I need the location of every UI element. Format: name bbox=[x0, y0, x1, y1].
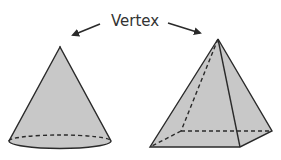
arrow-to-cone-vertex bbox=[73, 24, 100, 35]
arrow-to-pyramid-vertex bbox=[168, 23, 200, 33]
vertex-diagram: Vertex bbox=[0, 0, 281, 160]
cone-vertex bbox=[59, 46, 61, 48]
vertex-label: Vertex bbox=[111, 12, 159, 30]
cone bbox=[9, 46, 111, 148]
cone-body bbox=[9, 47, 111, 149]
square-pyramid bbox=[150, 39, 272, 147]
